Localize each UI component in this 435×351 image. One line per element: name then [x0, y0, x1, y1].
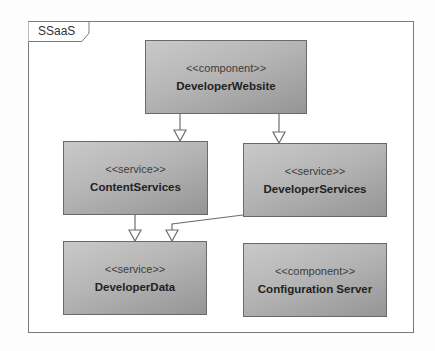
node-configuration-server[interactable]: <<component>> Configuration Server: [243, 243, 387, 317]
node-name: Configuration Server: [258, 281, 372, 297]
node-developer-services[interactable]: <<service>> DeveloperServices: [243, 143, 387, 217]
stereotype-label: <<component>>: [186, 61, 266, 75]
stereotype-label: <<service>>: [285, 164, 346, 178]
arrowhead-icon: [129, 230, 141, 241]
arrowhead-icon: [166, 230, 178, 241]
node-developer-data[interactable]: <<service>> DeveloperData: [63, 241, 207, 315]
edge-devservices-data: [172, 215, 243, 230]
stereotype-label: <<service>>: [105, 162, 166, 176]
node-content-services[interactable]: <<service>> ContentServices: [63, 141, 208, 215]
stereotype-label: <<service>>: [105, 262, 166, 276]
node-name: ContentServices: [90, 179, 181, 195]
stereotype-label: <<component>>: [275, 264, 355, 278]
arrowhead-icon: [174, 130, 186, 141]
node-developer-website[interactable]: <<component>> DeveloperWebsite: [145, 40, 307, 114]
node-name: DeveloperWebsite: [176, 78, 276, 94]
arrowhead-icon: [273, 132, 285, 143]
node-name: DeveloperServices: [264, 181, 367, 197]
node-name: DeveloperData: [95, 279, 176, 295]
